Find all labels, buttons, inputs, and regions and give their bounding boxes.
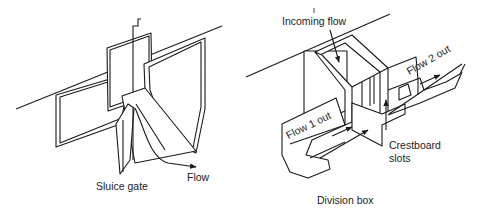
division-box-drawing: [246, 14, 465, 178]
crestboard-arrow-1: [320, 130, 368, 158]
diagram-canvas: [0, 0, 477, 215]
flow2-arrow: [420, 75, 440, 84]
crestboard-label: Crestboard: [389, 140, 441, 151]
sluice-gate-caption: Sluice gate: [96, 181, 148, 192]
division-box-caption: Division box: [317, 195, 374, 206]
flow-label: Flow: [187, 172, 209, 183]
slots-label: slots: [389, 153, 411, 164]
sluice-gate-drawing: [16, 19, 222, 174]
incoming-flow-label: Incoming flow: [282, 16, 346, 27]
